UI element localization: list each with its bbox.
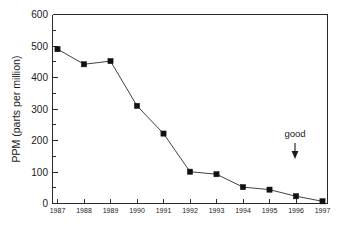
y-tick-label-500: 500 <box>31 41 48 52</box>
y-axis-title-group: PPM (parts per million) <box>10 56 22 163</box>
data-point-1988 <box>81 62 86 67</box>
y-axis-title: PPM (parts per million) <box>10 56 22 163</box>
x-tick-label-1992: 1992 <box>182 207 198 214</box>
y-tick-label-300: 300 <box>31 104 48 115</box>
y-tick-label-0: 0 <box>42 198 48 209</box>
data-point-1992 <box>187 169 192 174</box>
x-tick-label-1987: 1987 <box>50 207 66 214</box>
x-tick-label-1994: 1994 <box>235 207 251 214</box>
data-point-1993 <box>214 172 219 177</box>
x-tick-label-1989: 1989 <box>103 207 119 214</box>
x-tick-label-1991: 1991 <box>156 207 172 214</box>
data-point-1990 <box>134 103 139 108</box>
data-point-1996 <box>293 194 298 199</box>
data-point-1995 <box>267 187 272 192</box>
ppm-line-chart: 600 500 400 300 200 100 0 PPM (parts per… <box>0 0 341 232</box>
chart-container: 600 500 400 300 200 100 0 PPM (parts per… <box>0 0 341 232</box>
good-annotation-label: good <box>284 128 305 139</box>
data-point-1987 <box>55 47 60 52</box>
data-point-1994 <box>240 185 245 190</box>
y-tick-label-600: 600 <box>31 9 48 20</box>
chart-background <box>0 0 341 232</box>
x-tick-label-1997: 1997 <box>315 207 331 214</box>
x-tick-label-1988: 1988 <box>76 207 92 214</box>
y-tick-label-200: 200 <box>31 135 48 146</box>
data-point-1997 <box>320 199 325 204</box>
data-point-1991 <box>161 131 166 136</box>
data-point-1989 <box>108 59 113 64</box>
x-tick-label-1995: 1995 <box>262 207 278 214</box>
y-tick-label-400: 400 <box>31 72 48 83</box>
x-tick-label-1993: 1993 <box>209 207 225 214</box>
y-tick-label-100: 100 <box>31 167 48 178</box>
x-tick-label-1990: 1990 <box>129 207 145 214</box>
x-tick-label-1996: 1996 <box>288 207 304 214</box>
